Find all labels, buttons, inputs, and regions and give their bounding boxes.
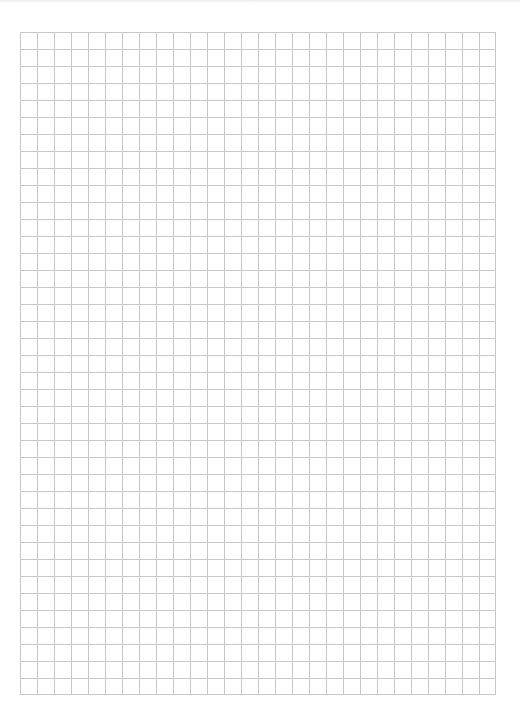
graph-paper-grid <box>20 32 496 695</box>
top-edge-shadow <box>0 0 520 3</box>
